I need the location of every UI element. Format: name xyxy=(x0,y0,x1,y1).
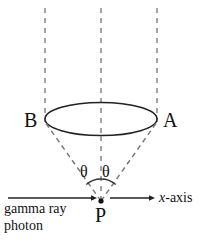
label-x-axis: x-axis xyxy=(159,191,192,205)
point-p-marker xyxy=(98,198,103,203)
label-theta-left: θ xyxy=(80,164,88,180)
incoming-gamma-ray-arrow xyxy=(8,195,97,201)
vertical-guide-lines xyxy=(45,8,157,136)
gamma-ray-caption: gamma ray photon xyxy=(4,201,67,234)
gamma-ray-caption-line1: gamma ray xyxy=(4,201,67,218)
gamma-ray-caption-line2: photon xyxy=(4,218,67,235)
label-x-axis-suffix: -axis xyxy=(165,190,192,205)
label-point-p: P xyxy=(95,205,106,225)
label-point-a: A xyxy=(163,110,177,130)
label-point-b: B xyxy=(24,110,37,130)
compton-cone-diagram: B A θ θ P x-axis gamma ray photon xyxy=(0,0,209,244)
label-theta-right: θ xyxy=(102,164,110,180)
x-axis-arrow xyxy=(110,195,155,201)
